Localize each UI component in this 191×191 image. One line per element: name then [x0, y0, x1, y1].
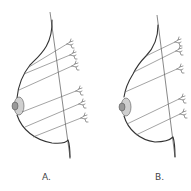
lobules: [175, 37, 187, 118]
chest-wall-line: [50, 12, 70, 157]
breast-outline: [124, 25, 175, 157]
panel-label-b: B.: [155, 172, 164, 182]
ducts: [19, 44, 81, 137]
diagram-canvas: [0, 0, 191, 191]
panel-b: [119, 15, 187, 157]
lobules: [67, 39, 88, 122]
panel-a: [12, 12, 88, 158]
breast-outline: [17, 20, 70, 158]
nipple: [119, 103, 125, 111]
panel-label-a: A.: [42, 172, 51, 182]
chest-wall-line: [157, 15, 175, 157]
nipple: [12, 102, 18, 110]
ducts: [125, 42, 180, 135]
